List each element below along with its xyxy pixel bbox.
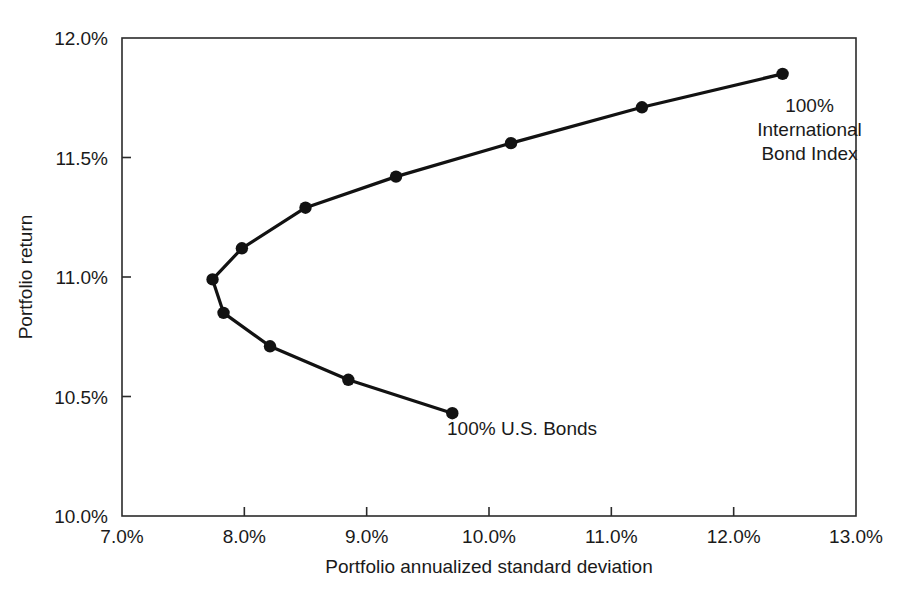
data-point-marker [217, 307, 229, 319]
y-tick-label: 11.5% [56, 148, 109, 169]
data-point-marker [206, 273, 218, 285]
figure-background [0, 0, 904, 591]
y-tick-label: 10.0% [54, 506, 108, 527]
y-axis-title: Portfolio return [15, 215, 36, 340]
data-point-marker [236, 242, 248, 254]
data-point-marker [264, 340, 276, 352]
x-tick-label: 9.0% [345, 526, 388, 547]
x-tick-label: 12.0% [707, 526, 761, 547]
data-point-marker [636, 101, 648, 113]
data-point-marker [342, 374, 354, 386]
x-tick-label: 8.0% [223, 526, 266, 547]
x-axis-title: Portfolio annualized standard deviation [325, 556, 652, 577]
x-tick-label: 7.0% [100, 526, 143, 547]
international-bond-index-endpoint-label: International [757, 119, 862, 140]
data-point-marker [776, 68, 788, 80]
data-point-marker [505, 137, 517, 149]
y-tick-label: 12.0% [54, 28, 108, 49]
chart-figure: 7.0%8.0%9.0%10.0%11.0%12.0%13.0% 10.0%10… [0, 0, 904, 591]
x-tick-label: 10.0% [462, 526, 516, 547]
x-tick-label: 13.0% [829, 526, 883, 547]
efficient-frontier-chart: 7.0%8.0%9.0%10.0%11.0%12.0%13.0% 10.0%10… [0, 0, 904, 591]
us-bonds-endpoint-label: 100% U.S. Bonds [447, 418, 597, 439]
data-point-marker [299, 201, 311, 213]
international-bond-index-endpoint-label: 100% [785, 95, 834, 116]
y-tick-label: 11.0% [56, 267, 109, 288]
x-tick-label: 11.0% [585, 526, 638, 547]
y-tick-label: 10.5% [54, 387, 108, 408]
data-point-marker [390, 170, 402, 182]
international-bond-index-endpoint-label: Bond Index [761, 143, 858, 164]
